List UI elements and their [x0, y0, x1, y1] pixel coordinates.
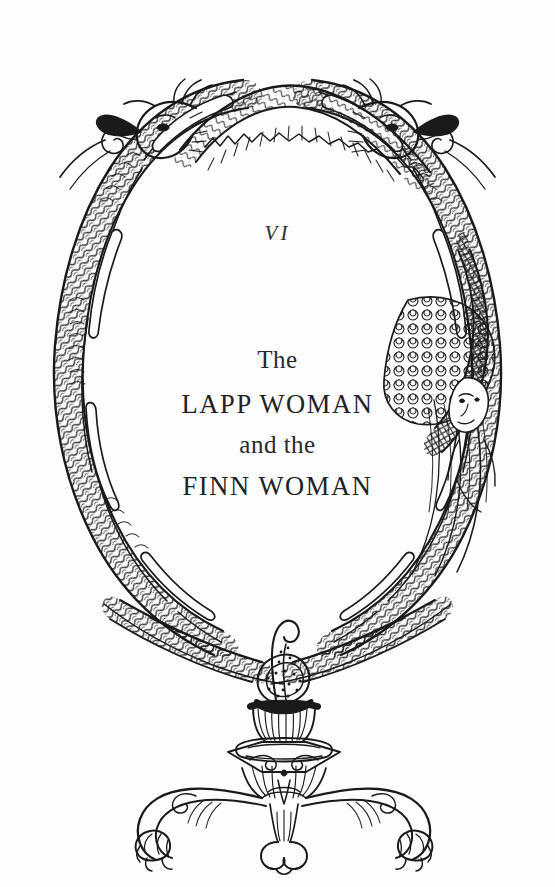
tripod-base: [136, 788, 433, 875]
chapter-title-line-3: and the: [0, 429, 555, 462]
claw-foot-left: [136, 831, 172, 871]
title-spacer-a: [0, 377, 555, 388]
claw-foot-right: [396, 831, 432, 871]
chapter-title-page: VI The LAPP WOMAN and the FINN WOMAN: [0, 0, 555, 887]
pedestal-urn: [228, 700, 340, 804]
chapter-number: VI: [0, 221, 555, 246]
chapter-title: The LAPP WOMAN and the FINN WOMAN: [0, 344, 555, 504]
chapter-title-line-1: The: [0, 344, 555, 377]
title-spacer-c: [0, 462, 555, 470]
title-spacer-b: [0, 421, 555, 429]
chapter-title-line-2: LAPP WOMAN: [0, 388, 555, 422]
chapter-title-line-4: FINN WOMAN: [0, 470, 555, 504]
